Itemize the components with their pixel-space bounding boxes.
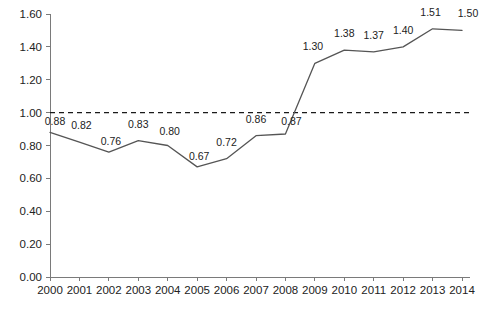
- point-label-2001: 0.82: [71, 119, 92, 131]
- x-tick-label-2007: 2007: [243, 284, 269, 296]
- x-tick-label-2010: 2010: [331, 284, 357, 296]
- point-label-2006: 0.72: [216, 136, 237, 148]
- point-label-2007: 0.86: [246, 113, 267, 125]
- x-tick-label-2001: 2001: [67, 284, 93, 296]
- x-tick-label-2004: 2004: [155, 284, 181, 296]
- x-tick-label-2003: 2003: [125, 284, 151, 296]
- x-tick-label-2000: 2000: [37, 284, 63, 296]
- point-label-2000: 0.88: [45, 115, 66, 127]
- x-tick-label-2006: 2006: [214, 284, 240, 296]
- y-tick-label: 1.00: [20, 107, 42, 119]
- point-label-2013: 1.51: [420, 6, 441, 18]
- y-tick-label: 1.60: [20, 8, 42, 20]
- line-chart: 0.000.200.400.600.801.001.201.401.60 200…: [0, 0, 486, 310]
- x-axis: 2000200120022003200420052006200720082009…: [37, 277, 475, 296]
- x-tick-label-2005: 2005: [184, 284, 210, 296]
- point-label-2012: 1.40: [393, 24, 414, 36]
- point-label-2014: 1.50: [458, 7, 479, 19]
- y-tick-label: 0.80: [20, 140, 42, 152]
- y-tick-label: 0.60: [20, 172, 42, 184]
- x-tick-label-2011: 2011: [361, 284, 386, 296]
- y-tick-label: 1.40: [20, 41, 42, 53]
- y-tick-label: 1.20: [20, 74, 42, 86]
- chart-canvas: 0.000.200.400.600.801.001.201.401.60 200…: [0, 0, 486, 310]
- x-tick-label-2008: 2008: [273, 284, 299, 296]
- x-tick-label-2002: 2002: [96, 284, 122, 296]
- y-tick-label: 0.20: [20, 238, 42, 250]
- point-label-2008: 0.87: [281, 115, 302, 127]
- x-tick-label-2014: 2014: [449, 284, 475, 296]
- point-label-2009: 1.30: [303, 40, 324, 52]
- point-label-2002: 0.76: [101, 135, 122, 147]
- x-tick-label-2012: 2012: [390, 284, 416, 296]
- point-label-2004: 0.80: [159, 125, 180, 137]
- data-point-labels: 0.880.820.760.830.800.670.720.860.871.30…: [45, 6, 479, 162]
- point-label-2003: 0.83: [128, 118, 149, 130]
- x-tick-label-2013: 2013: [420, 284, 446, 296]
- point-label-2011: 1.37: [363, 29, 384, 41]
- y-tick-label: 0.40: [20, 205, 42, 217]
- point-label-2005: 0.67: [189, 150, 210, 162]
- y-axis: 0.000.200.400.600.801.001.201.401.60: [20, 8, 50, 283]
- x-tick-label-2009: 2009: [302, 284, 328, 296]
- y-tick-label: 0.00: [20, 271, 42, 283]
- point-label-2010: 1.38: [334, 27, 355, 39]
